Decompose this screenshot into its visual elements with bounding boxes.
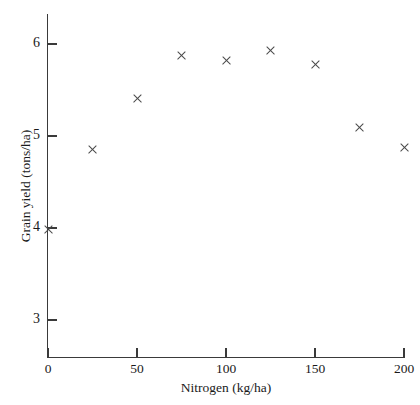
data-point-marker <box>132 93 143 104</box>
marker-stroke <box>311 60 320 69</box>
marker-stroke <box>311 60 320 69</box>
plot-area <box>0 0 420 405</box>
y-axis-line <box>47 14 48 358</box>
marker-stroke <box>355 124 364 133</box>
x-tick-label-0: 0 <box>28 361 68 377</box>
x-tick-label-50: 50 <box>117 361 157 377</box>
x-tick-100 <box>225 348 226 358</box>
y-tick-label-6: 6 <box>18 36 40 50</box>
data-point-marker <box>87 144 98 155</box>
marker-stroke <box>222 56 231 65</box>
data-point-marker <box>310 59 321 70</box>
x-axis-title: Nitrogen (kg/ha) <box>47 380 405 396</box>
marker-stroke <box>133 94 142 103</box>
data-point-marker <box>221 55 232 66</box>
marker-stroke <box>266 46 275 55</box>
y-tick-5 <box>48 135 57 136</box>
x-tick-150 <box>314 348 315 358</box>
marker-stroke <box>177 52 186 61</box>
marker-stroke <box>88 146 97 155</box>
marker-stroke <box>133 94 142 103</box>
scatter-plot-figure: 3456 050100150200 Nitrogen (kg/ha) Grain… <box>0 0 420 405</box>
y-tick-label-3: 3 <box>18 312 40 326</box>
x-tick-0 <box>47 348 48 358</box>
x-tick-label-200: 200 <box>384 361 420 377</box>
marker-stroke <box>355 124 364 133</box>
x-tick-50 <box>136 348 137 358</box>
y-tick-4 <box>48 227 57 228</box>
marker-stroke <box>177 52 186 61</box>
marker-stroke <box>400 144 409 153</box>
y-tick-label-text: 3 <box>18 312 40 326</box>
marker-stroke <box>222 56 231 65</box>
x-tick-200 <box>403 348 404 358</box>
y-tick-6 <box>48 43 57 44</box>
data-point-marker <box>399 142 410 153</box>
x-tick-label-100: 100 <box>206 361 246 377</box>
x-tick-label-150: 150 <box>295 361 335 377</box>
marker-stroke <box>400 144 409 153</box>
y-tick-label-text: 6 <box>18 36 40 50</box>
y-tick-3 <box>48 319 57 320</box>
data-point-marker <box>176 50 187 61</box>
marker-stroke <box>266 46 275 55</box>
data-point-marker <box>265 45 276 56</box>
y-axis-title: Grain yield (tons/ha) <box>18 96 34 276</box>
marker-stroke <box>88 146 97 155</box>
data-point-marker <box>354 122 365 133</box>
